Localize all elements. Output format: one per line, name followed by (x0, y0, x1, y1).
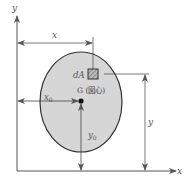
dA-label: dA (73, 70, 85, 80)
diagram-svg: y x x y dA G (図心) x0 y0 (0, 0, 188, 184)
area-element-dA (88, 69, 98, 79)
centroid-diagram: y x x y dA G (図心) x0 y0 (0, 0, 188, 184)
centroid-label: G (図心) (77, 86, 105, 95)
centroid-point (78, 98, 83, 103)
x-axis-label: x (177, 166, 182, 176)
y-dimension-label: y (147, 117, 154, 127)
y-axis-label: y (11, 3, 18, 13)
x-dimension-label: x (52, 30, 57, 40)
